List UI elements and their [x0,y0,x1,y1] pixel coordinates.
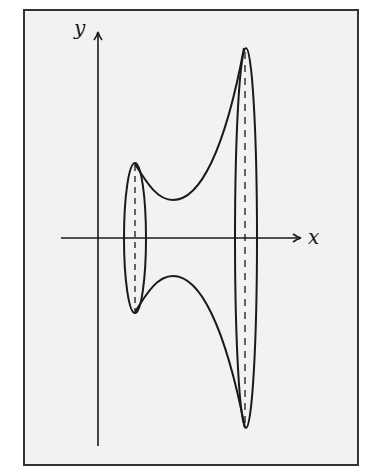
surface-of-revolution-diagram: y x [0,0,366,476]
x-axis-label: x [308,225,319,249]
y-axis-label: y [73,16,86,40]
